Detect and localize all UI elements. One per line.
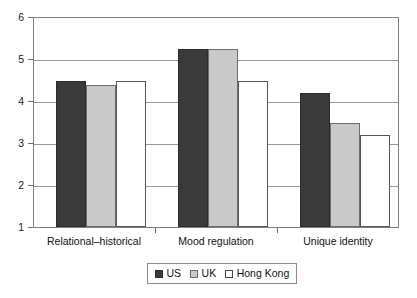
bar-uk-mood-regulation — [208, 49, 238, 227]
category-label-unique-identity: Unique identity — [278, 236, 398, 247]
legend-item-us: US — [155, 268, 181, 279]
legend-item-hongkong: Hong Kong — [225, 268, 289, 279]
plot-area — [33, 17, 399, 228]
category-label-relational-historical: Relational–historical — [34, 236, 154, 247]
legend-label-uk: UK — [202, 268, 217, 279]
bar-us-relational-historical — [56, 81, 86, 227]
y-tick-label-3: 3 — [4, 138, 24, 149]
legend-swatch-uk-icon — [190, 270, 198, 278]
legend-label-us: US — [167, 268, 182, 279]
bar-hongkong-mood-regulation — [238, 81, 268, 227]
legend-item-uk: UK — [190, 268, 216, 279]
y-tick-label-2: 2 — [4, 180, 24, 191]
bar-chart: 6 5 4 3 2 1 Relational–historical Mood r… — [0, 0, 417, 298]
y-tick-label-5: 5 — [4, 54, 24, 65]
legend: US UK Hong Kong — [147, 263, 297, 284]
bar-us-mood-regulation — [178, 49, 208, 227]
bar-uk-unique-identity — [330, 123, 360, 228]
y-tick-label-1: 1 — [4, 222, 24, 233]
y-tick-label-6: 6 — [4, 12, 24, 23]
category-tick-2 — [277, 228, 278, 233]
y-tick-label-4: 4 — [4, 96, 24, 107]
category-label-mood-regulation: Mood regulation — [156, 236, 276, 247]
category-tick-1 — [155, 228, 156, 233]
bar-uk-relational-historical — [86, 85, 116, 227]
legend-label-hongkong: Hong Kong — [237, 268, 290, 279]
legend-swatch-hongkong-icon — [225, 270, 233, 278]
bar-us-unique-identity — [300, 93, 330, 227]
bar-hongkong-relational-historical — [116, 81, 146, 227]
legend-swatch-us-icon — [155, 270, 163, 278]
bar-hongkong-unique-identity — [360, 135, 390, 227]
